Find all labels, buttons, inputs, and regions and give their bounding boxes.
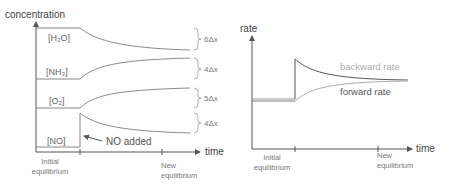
left-tick-new-label-2: equilibrium (161, 171, 197, 180)
left-tick-initial-label-2: equilibrium (32, 167, 68, 176)
right-tick-new-label-2: equilibrium (377, 161, 413, 170)
brace-h2o (194, 28, 201, 50)
diagram-canvas: concentration time Initial equilibrium N… (0, 0, 461, 185)
rate-chart: rate time Initial equilibrium New equili… (240, 23, 435, 172)
left-y-axis-label: concentration (5, 9, 65, 20)
no-label: [NO] (47, 136, 66, 146)
h2o-label: [H₂O] (48, 33, 70, 43)
right-tick-initial-label-2: equilibrium (254, 163, 290, 172)
backward-rate-label: backward rate (340, 61, 400, 72)
brace-o2 (194, 88, 201, 108)
forward-rate-label: forward rate (340, 86, 391, 97)
o2-delta: 5Δx (204, 94, 218, 103)
nh3-label: [NH₃] (46, 67, 68, 77)
right-tick-new-label-1: New (377, 151, 393, 160)
left-tick-initial-label-1: Initial (41, 157, 59, 166)
left-x-axis-label: time (205, 146, 224, 157)
no-delta: 4Δx (204, 119, 218, 128)
o2-label: [O₂] (49, 96, 65, 106)
no-added-arrow (84, 136, 102, 141)
right-y-axis-label: rate (240, 23, 258, 34)
no-added-label: NO added (106, 136, 152, 147)
nh3-delta: 4Δx (204, 65, 218, 74)
right-x-axis-label: time (416, 143, 435, 154)
left-tick-new-label-1: New (161, 161, 177, 170)
brace-nh3 (194, 58, 201, 79)
brace-no (194, 113, 201, 133)
h2o-delta: 6Δx (204, 35, 218, 44)
right-tick-initial-label-1: Initial (263, 153, 281, 162)
concentration-chart: concentration time Initial equilibrium N… (5, 9, 224, 180)
